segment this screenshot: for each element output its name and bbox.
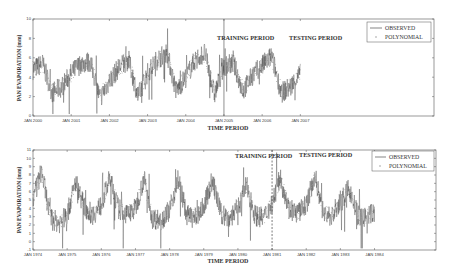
x-tick-label: JAN 2000 — [24, 118, 43, 123]
x-tick-label: JAN 2002 — [100, 118, 119, 123]
x-tick-label: JAN 1984 — [365, 252, 384, 257]
polynomial-series — [33, 50, 301, 101]
x-tick-label: JAN 1979 — [195, 252, 214, 257]
top-legend-polynomial: POLYNOMIAL — [385, 34, 423, 40]
x-tick-label: JAN 1974 — [24, 252, 43, 257]
y-tick-label: 8 — [29, 172, 32, 177]
legend-polynomial-marker-icon — [379, 165, 380, 166]
y-tick-label: 2 — [29, 222, 32, 227]
y-tick-label: 3 — [29, 214, 32, 219]
bottom-training-label: TRAINING PERIOD — [235, 152, 293, 159]
y-tick-label: 10 — [26, 16, 31, 21]
bottom-legend-observed: OBSERVED — [389, 154, 419, 160]
x-tick-label: JAN 1975 — [58, 252, 77, 257]
x-tick-label: JAN 2001 — [62, 118, 81, 123]
bottom-legend-polynomial: POLYNOMIAL — [389, 163, 427, 169]
y-tick-label: 7 — [29, 181, 32, 186]
bottom-plot-data — [33, 153, 375, 249]
x-tick-label: JAN 2004 — [177, 118, 196, 123]
y-tick-label: 1 — [29, 231, 32, 236]
y-tick-label: 6 — [29, 55, 32, 60]
bottom-x-axis: JAN 1974JAN 1975JAN 1976JAN 1977JAN 1978… — [24, 150, 385, 257]
x-tick-label: JAN 1983 — [331, 252, 350, 257]
top-x-axis-label: TIME PERIOD — [208, 125, 250, 131]
top-legend: OBSERVED POLYNOMIAL — [367, 22, 431, 42]
y-tick-label: 10 — [26, 156, 31, 161]
top-panel: 0246810 JAN 2000JAN 2001JAN 2002JAN 2003… — [16, 16, 434, 131]
y-tick-label: 9 — [29, 164, 32, 169]
y-tick-label: 4 — [29, 206, 32, 211]
y-tick-label: 2 — [29, 94, 32, 99]
top-training-label: TRAINING PERIOD — [217, 34, 275, 41]
x-tick-label: JAN 1981 — [263, 252, 282, 257]
bottom-y-axis-label: PAN EVAPORATION (mm) — [16, 167, 23, 234]
x-tick-label: JAN 1978 — [160, 252, 179, 257]
observed-series — [33, 29, 300, 115]
polynomial-series — [33, 168, 375, 228]
y-tick-label: 5 — [29, 197, 32, 202]
x-tick-label: JAN 1977 — [126, 252, 145, 257]
top-legend-observed: OBSERVED — [385, 25, 415, 31]
x-tick-label: JAN 1980 — [229, 252, 248, 257]
y-tick-label: 4 — [29, 75, 32, 80]
top-testing-label: TESTING PERIOD — [289, 34, 343, 41]
x-tick-label: JAN 2006 — [253, 118, 272, 123]
y-tick-label: 0 — [29, 239, 32, 244]
x-tick-label: JAN 2003 — [138, 118, 157, 123]
bottom-x-axis-label: TIME PERIOD — [208, 258, 250, 264]
y-tick-label: 11 — [27, 147, 32, 152]
x-tick-label: JAN 2007 — [291, 118, 310, 123]
bottom-panel: -101234567891011 JAN 1974JAN 1975JAN 197… — [16, 147, 436, 264]
x-tick-label: JAN 1982 — [297, 252, 316, 257]
y-tick-label: 6 — [29, 189, 32, 194]
bottom-legend: OBSERVED POLYNOMIAL — [372, 151, 434, 171]
bottom-testing-label: TESTING PERIOD — [299, 151, 353, 158]
y-tick-label: 8 — [29, 36, 32, 41]
legend-polynomial-marker-icon — [375, 36, 376, 37]
figure: 0246810 JAN 2000JAN 2001JAN 2002JAN 2003… — [0, 0, 454, 279]
top-y-axis-label: PAN EVAPORATION (mm) — [16, 35, 23, 102]
x-tick-label: JAN 1976 — [92, 252, 111, 257]
x-tick-label: JAN 2005 — [215, 118, 234, 123]
top-plot-data — [33, 29, 301, 115]
